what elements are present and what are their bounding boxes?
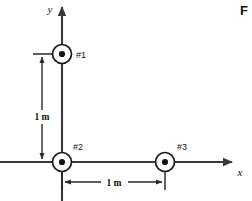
current-out-of-page-dot-icon	[162, 159, 168, 165]
current-out-of-page-dot-icon	[59, 51, 65, 57]
x-axis-label: x	[237, 166, 243, 178]
vertical-dim-label: 1 m	[34, 112, 49, 122]
charge-marker-1[interactable]: #1	[53, 45, 87, 64]
charge-marker-3[interactable]: #3	[156, 142, 188, 172]
charge-marker-2[interactable]: #2	[53, 142, 84, 172]
horizontal-dimension-group: 1 m	[62, 172, 165, 190]
caption-fragment: F	[240, 3, 248, 18]
vertical-dimension-group: 1 m	[33, 54, 52, 159]
figure-container: y x 1 m 1 m	[0, 0, 252, 201]
diagram-canvas: y x 1 m 1 m	[0, 0, 252, 201]
axes-group: y x	[0, 3, 243, 201]
horizontal-dim-label: 1 m	[106, 178, 121, 188]
y-axis-label: y	[47, 3, 53, 15]
current-out-of-page-dot-icon	[59, 159, 65, 165]
charge-label-1: #1	[76, 50, 86, 60]
charge-label-2: #2	[73, 142, 83, 152]
charge-label-3: #3	[177, 142, 187, 152]
